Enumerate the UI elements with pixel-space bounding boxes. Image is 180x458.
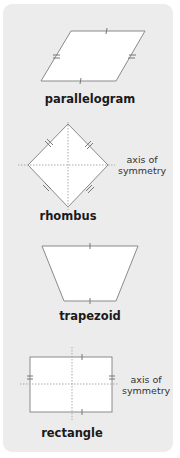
annotation-line: axis of: [122, 374, 170, 385]
rectangle-label: rectangle: [0, 426, 162, 440]
annotation-line: symmetry: [118, 165, 166, 176]
parallelogram-label: parallelogram: [0, 92, 180, 106]
rectangle-axis-annotation: axis of symmetry: [122, 374, 170, 396]
parallelogram-shape: [41, 28, 145, 84]
annotation-line: symmetry: [122, 385, 170, 396]
rhombus-label: rhombus: [0, 209, 158, 223]
rhombus-axis-annotation: axis of symmetry: [118, 154, 166, 176]
rhombus-shape: [18, 122, 115, 210]
rectangle-shape: [20, 347, 118, 420]
trapezoid-label: trapezoid: [0, 309, 180, 323]
trapezoid-shape: [42, 243, 138, 304]
annotation-line: axis of: [118, 154, 166, 165]
